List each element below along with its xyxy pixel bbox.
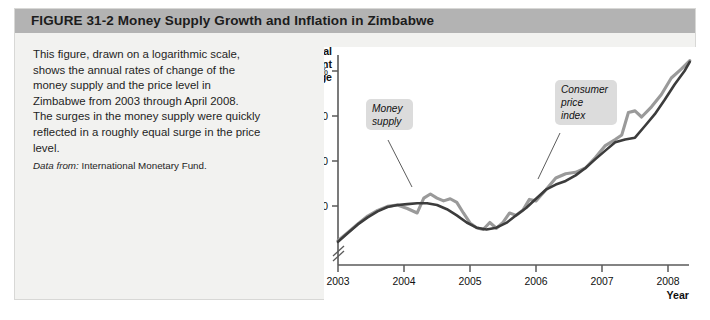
annotation-cpi-line2: price — [560, 97, 583, 108]
leader-line-money-supply — [388, 140, 412, 187]
series-line-money-supply — [338, 61, 690, 241]
figure-title: FIGURE 31-2 Money Supply Growth and Infl… — [31, 13, 434, 28]
figure-source: Data from: International Monetary Fund. — [33, 159, 261, 172]
y-tick-label: 10,000 — [324, 156, 328, 167]
x-tick-label: 2006 — [524, 276, 547, 287]
source-name: International Monetary Fund. — [81, 160, 206, 171]
figure-caption: This figure, drawn on a logarithmic scal… — [33, 47, 261, 172]
x-axis-tick-labels: 2003 2004 2005 2006 2007 2008 — [326, 276, 679, 287]
y-tick-label: 1,000 — [324, 201, 328, 212]
x-tick-label: 2008 — [656, 276, 679, 287]
y-axis-ticks — [332, 71, 338, 206]
annotation-money-supply: Money supply — [366, 99, 413, 130]
x-axis-title: Year — [667, 289, 689, 300]
source-prefix: Data from: — [33, 160, 79, 171]
chart-plot-area: Money supply Consumer price index Annual… — [324, 47, 696, 300]
y-tick-label: 100,000 — [324, 111, 328, 122]
x-tick-label: 2007 — [590, 276, 613, 287]
x-axis-ticks — [338, 265, 668, 272]
annotation-cpi-line1: Consumer — [561, 84, 609, 95]
annotation-money-supply-line1: Money — [372, 103, 403, 114]
x-tick-label: 2004 — [392, 276, 415, 287]
annotation-consumer-price-index: Consumer price index — [555, 80, 617, 125]
line-chart: Money supply Consumer price index Annual… — [324, 47, 696, 300]
leader-line-consumer-price-index — [538, 133, 560, 179]
chart-axes — [333, 55, 689, 265]
annotation-money-supply-line2: supply — [372, 116, 402, 127]
y-tick-label: 1,000,000% — [324, 66, 328, 77]
caption-text: This figure, drawn on a logarithmic scal… — [33, 48, 260, 154]
x-tick-label: 2005 — [458, 276, 481, 287]
annotation-cpi-line3: index — [561, 110, 586, 121]
y-axis-title-line1: Annual — [324, 47, 332, 57]
figure-container: FIGURE 31-2 Money Supply Growth and Infl… — [14, 8, 696, 300]
x-tick-label: 2003 — [326, 276, 349, 287]
y-axis-tick-labels: 1,000,000% 100,000 10,000 1,000 — [324, 66, 328, 212]
y-axis-title: Annual percent change — [324, 47, 332, 83]
figure-header-bar: FIGURE 31-2 Money Supply Growth and Infl… — [15, 9, 695, 33]
